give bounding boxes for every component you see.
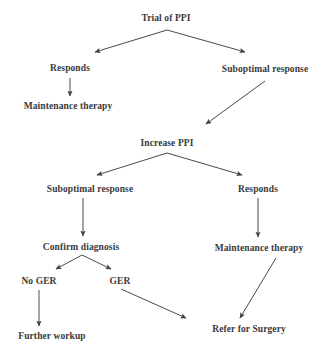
node-further-workup: Further workup (18, 331, 85, 341)
node-trial-of-ppi: Trial of PPI (141, 13, 190, 23)
flow-arrow (240, 258, 276, 318)
flow-arrow (167, 153, 242, 175)
node-ger: GER (110, 276, 131, 286)
node-no-ger: No GER (21, 276, 56, 286)
flow-arrow (206, 81, 265, 124)
node-confirm-diagnosis: Confirm diagnosis (43, 242, 119, 252)
flow-arrow (56, 255, 82, 269)
flow-arrow (121, 289, 186, 318)
node-suboptimal-response-top: Suboptimal response (222, 64, 308, 74)
node-responds-top: Responds (50, 63, 90, 73)
node-increase-ppi: Increase PPI (141, 138, 194, 148)
node-refer-for-surgery: Refer for Surgery (212, 324, 286, 334)
node-suboptimal-response-mid: Suboptimal response (47, 184, 133, 194)
flow-arrow (95, 30, 167, 52)
flow-arrow (82, 255, 111, 269)
flowchart-diagram: Trial of PPIRespondsSuboptimal responseM… (0, 0, 321, 347)
flow-arrow (97, 153, 167, 175)
node-maintenance-therapy-right: Maintenance therapy (215, 243, 304, 253)
node-maintenance-therapy-left: Maintenance therapy (24, 101, 113, 111)
flowchart-edges (0, 0, 321, 347)
flow-arrow (167, 30, 245, 52)
node-responds-mid: Responds (238, 184, 278, 194)
